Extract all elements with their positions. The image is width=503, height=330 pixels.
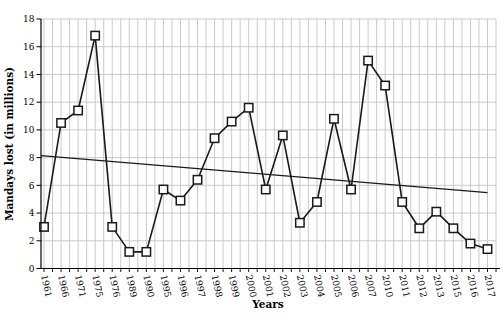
data-point-marker — [74, 106, 82, 114]
y-tick-label: 6 — [29, 181, 35, 191]
data-point-marker — [262, 185, 270, 193]
x-tick-label: 2005 — [329, 274, 344, 299]
line-chart-figure: 024681012141618 196119661971197519761989… — [0, 0, 503, 330]
data-point-marker — [210, 134, 218, 142]
data-point-marker — [193, 176, 201, 184]
x-tick-label: 2000 — [244, 274, 259, 299]
x-tick-label: 1995 — [158, 274, 173, 299]
data-point-marker — [449, 224, 457, 232]
data-point-marker — [364, 56, 372, 64]
x-tick-label: 2004 — [312, 274, 327, 299]
data-point-marker — [432, 207, 440, 215]
data-point-marker — [176, 196, 184, 204]
x-tick-label: 1999 — [227, 274, 242, 299]
x-tick-label: 2016 — [465, 274, 480, 299]
data-point-marker — [244, 104, 252, 112]
x-tick-label: 2003 — [295, 274, 310, 299]
y-tick-label: 2 — [29, 236, 35, 246]
data-point-marker — [159, 185, 167, 193]
data-point-marker — [296, 219, 304, 227]
x-tick-label: 2015 — [448, 274, 463, 299]
data-point-marker — [91, 31, 99, 39]
y-tick-label: 4 — [29, 208, 35, 218]
data-point-marker — [347, 185, 355, 193]
y-tick-label: 8 — [29, 153, 35, 163]
x-tick-label: 1961 — [39, 274, 54, 298]
data-point-marker — [227, 117, 235, 125]
data-point-marker — [57, 119, 65, 127]
x-tick-label: 2011 — [397, 274, 412, 298]
data-point-marker — [381, 81, 389, 89]
data-point-marker — [415, 224, 423, 232]
x-tick-label: 2013 — [431, 274, 446, 299]
x-tick-label: 1966 — [56, 274, 71, 299]
y-tick-label: 12 — [23, 97, 34, 107]
y-axis-tick-labels: 024681012141618 — [23, 14, 35, 274]
x-tick-label: 1990 — [141, 274, 156, 299]
x-tick-label: 1997 — [193, 274, 208, 299]
y-tick-label: 10 — [23, 125, 35, 135]
x-tick-label: 1989 — [124, 274, 139, 299]
x-tick-label: 1971 — [73, 274, 88, 298]
axes-and-ticks — [37, 19, 501, 272]
y-tick-label: 16 — [23, 42, 35, 52]
x-axis-title: Years — [251, 298, 284, 310]
y-axis-title: Mandays lost (in millions) — [3, 67, 15, 221]
mandays-lost-line-chart: 024681012141618 196119661971197519761989… — [0, 0, 503, 330]
x-tick-label: 1975 — [90, 274, 105, 299]
x-tick-label: 2006 — [346, 274, 361, 299]
data-point-marker — [125, 248, 133, 256]
data-point-marker — [466, 239, 474, 247]
y-tick-label: 14 — [23, 70, 35, 80]
x-tick-label: 2002 — [278, 274, 293, 298]
data-point-marker — [108, 223, 116, 231]
x-tick-label: 2017 — [483, 274, 498, 299]
data-point-marker — [330, 115, 338, 123]
x-tick-label: 2010 — [380, 274, 395, 299]
data-point-marker — [398, 198, 406, 206]
x-tick-label: 2007 — [363, 274, 378, 299]
x-tick-label: 1998 — [210, 274, 225, 299]
x-tick-label: 1996 — [176, 274, 191, 299]
x-axis-tick-labels: 1961196619711975197619891990199519961997… — [39, 274, 497, 299]
data-point-marker — [483, 245, 491, 253]
data-point-marker — [313, 198, 321, 206]
y-tick-label: 0 — [29, 264, 35, 274]
x-tick-label: 2001 — [261, 274, 276, 298]
data-point-marker — [142, 248, 150, 256]
data-point-marker — [279, 131, 287, 139]
y-tick-label: 18 — [23, 14, 35, 24]
x-tick-label: 1976 — [107, 274, 122, 299]
x-tick-label: 2012 — [414, 274, 429, 298]
